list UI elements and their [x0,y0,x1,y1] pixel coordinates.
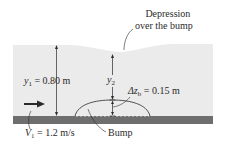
channel-bed [13,116,213,124]
y1-label: y1 = 0.80 m [24,76,70,88]
depression-label-line2: over the bump [135,21,193,31]
y1-value: = 0.80 m [32,75,70,86]
bump-label: Bump [108,128,132,138]
v1-label: V1 = 1.2 m/s [25,128,75,140]
dz-symbol: Δz [128,85,138,96]
dz-label: Δzb = 0.15 m [128,86,180,98]
diagram-canvas: Depression over the bump y1 = 0.80 m y2 … [0,0,228,150]
depression-label-line1: Depression [143,9,193,19]
dz-value: = 0.15 m [141,85,179,96]
y2-label: y2 [107,75,115,87]
depression-label: Depression over the bump [143,9,193,31]
y2-subscript: 2 [111,79,115,87]
depression-leader-line [124,29,133,50]
v1-value: = 1.2 m/s [35,127,75,138]
